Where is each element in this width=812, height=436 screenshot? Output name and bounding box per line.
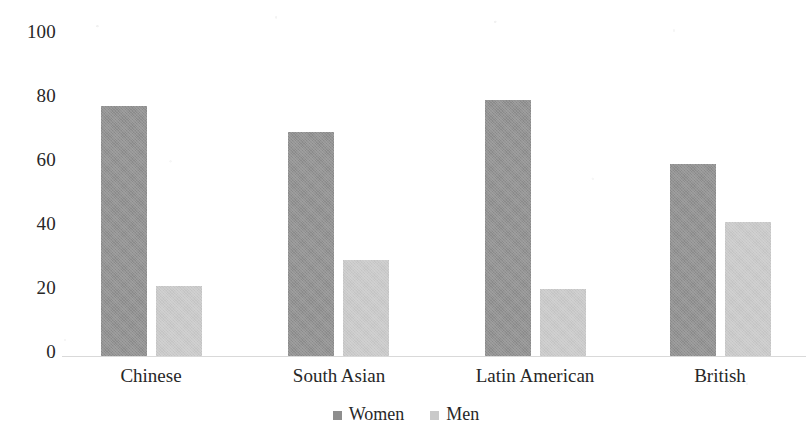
bar-chinese-men[interactable] <box>156 286 202 356</box>
bar-south-asian-men[interactable] <box>343 260 389 356</box>
legend-label-men: Men <box>446 404 479 424</box>
legend-label-women: Women <box>349 404 405 424</box>
y-tick-label-80: 80 <box>4 86 56 105</box>
y-tick-label-20: 20 <box>4 278 56 297</box>
y-tick-label-100: 100 <box>4 22 56 41</box>
x-category-label-latin-american: Latin American <box>476 365 595 387</box>
bar-chart-figure: 100 80 60 40 20 0 Chinese South Asian La… <box>0 0 812 436</box>
y-tick-label-40: 40 <box>4 214 56 233</box>
y-tick-label-60: 60 <box>4 150 56 169</box>
bar-latin-american-men[interactable] <box>540 289 586 356</box>
bar-chinese-women[interactable] <box>101 106 147 356</box>
legend-swatch-women-icon <box>333 411 342 420</box>
x-category-label-south-asian: South Asian <box>293 365 385 387</box>
y-axis: 100 80 60 40 20 0 <box>0 0 56 436</box>
y-tick-label-0: 0 <box>4 342 56 361</box>
bar-british-men[interactable] <box>725 222 771 356</box>
x-axis-line <box>62 356 806 357</box>
bar-british-women[interactable] <box>670 164 716 356</box>
chart-legend: Women Men <box>0 404 812 424</box>
bar-south-asian-women[interactable] <box>288 132 334 356</box>
x-category-label-british: British <box>694 365 746 387</box>
plot-area <box>62 20 806 356</box>
legend-entry-men[interactable]: Men <box>430 404 479 424</box>
bar-latin-american-women[interactable] <box>485 100 531 356</box>
legend-entry-women[interactable]: Women <box>333 404 405 424</box>
x-category-label-chinese: Chinese <box>120 365 181 387</box>
legend-swatch-men-icon <box>430 411 439 420</box>
